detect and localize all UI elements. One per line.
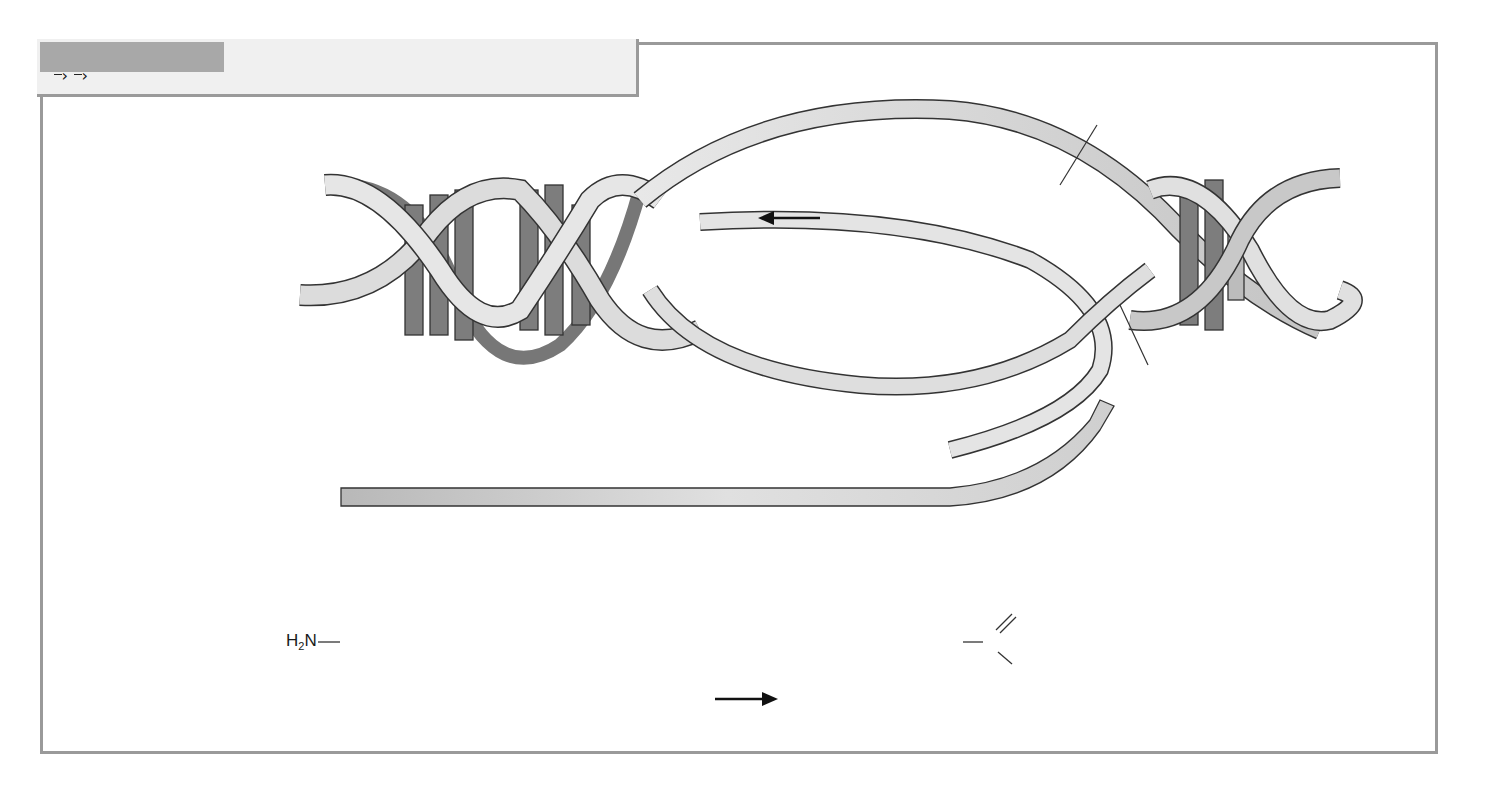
- mrna-strand: [341, 400, 1114, 506]
- n-terminus-label: H2N: [286, 631, 317, 652]
- translation-arrow: [715, 692, 778, 706]
- left-double-helix: [300, 185, 700, 358]
- dna-diagram: [0, 0, 1498, 790]
- transcription-bubble: [650, 220, 1150, 450]
